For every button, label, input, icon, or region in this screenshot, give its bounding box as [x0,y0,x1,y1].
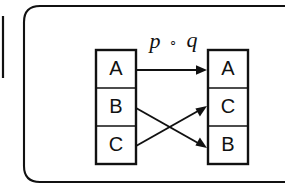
mapping-arrow-b-to-b [136,108,207,148]
composition-diagram-figure: A B C A C B p [0,0,285,194]
domain-set: A B C [96,50,136,164]
map-label-left-symbol: p [148,28,161,53]
domain-cell-0-label: A [109,57,123,79]
map-label-right-symbol: q [187,27,198,52]
mapping-arrow-a-to-a [136,65,207,75]
composition-operator-icon: ∘ [169,34,177,49]
codomain-cell-2-label: B [221,133,234,155]
map-label: p ∘ q [148,27,198,53]
codomain-cell-0-label: A [221,57,235,79]
domain-cell-1-label: B [109,95,122,117]
domain-cell-2-label: C [109,133,123,155]
codomain-set: A C B [208,50,248,164]
diagram-canvas: A B C A C B p [0,0,285,194]
codomain-cell-1-label: C [221,95,235,117]
mapping-arrow-c-to-c [136,106,207,146]
